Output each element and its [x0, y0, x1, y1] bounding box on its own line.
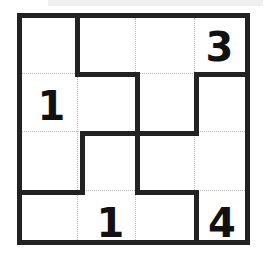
grid-inner-area: 3 1 1 4	[22, 18, 245, 240]
cage-edge-h-r3r4-c1	[22, 190, 85, 195]
cage-edge-v-c2c3-r3	[135, 131, 140, 195]
cage-edge-v-c1c2-r1	[75, 18, 80, 77]
cage-edge-h-r1r2-c2c3	[75, 72, 140, 77]
cage-edge-v-c2c3-r2	[135, 72, 140, 136]
cage-edge-v-c1c2-r3	[80, 131, 85, 195]
cage-edge-h-r3r4-c3	[135, 190, 199, 195]
grid-outer-border: 3 1 1 4	[17, 13, 250, 245]
clue-r1c4[interactable]: 3	[194, 27, 245, 67]
clue-r4c4[interactable]: 4	[199, 203, 245, 243]
clue-r4c2[interactable]: 1	[85, 203, 136, 243]
cage-edge-v-c3c4-r2	[194, 72, 199, 136]
clue-r2c1[interactable]: 1	[26, 86, 77, 126]
puzzle-grid: 3 1 1 4	[0, 0, 272, 260]
scan-artifact-band	[48, 0, 263, 6]
cage-edge-h-r1r2-c4	[194, 72, 245, 77]
